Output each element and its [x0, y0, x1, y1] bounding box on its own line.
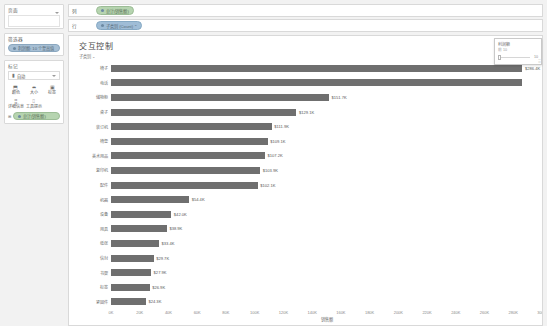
columns-pill-sum-sales[interactable]: 总计(销售额) — [96, 6, 134, 15]
bar-row: $33.4K — [111, 236, 542, 251]
mark-tooltip-button[interactable]: ⌷ 工具提示 — [25, 97, 42, 110]
mark-detail-label: 详细信息 — [8, 104, 24, 109]
category-axis: 椅子电话储物柜桌子装订机椅垫美术用品复印机配件机器设备用具纸张信封书架标签紧固件 — [69, 60, 111, 309]
bar-mark[interactable] — [111, 94, 329, 101]
slider-knob[interactable] — [498, 55, 501, 60]
axis-tick-label: 300K — [537, 310, 543, 315]
slider-track — [498, 57, 530, 58]
category-label: 电话 — [69, 76, 111, 91]
bar-row: $111.9K — [111, 119, 542, 134]
bar-mark[interactable] — [111, 255, 154, 262]
axis-tick-label: 60K — [194, 310, 201, 315]
marks-card: 标记 ▮ 自动 ⬒ 颜色 ⬌ 大小 ▣ 标签 — [4, 60, 64, 124]
bar-row: $38.9K — [111, 222, 542, 237]
rows-pill-subcategory[interactable]: 子类别 (Count) ⌃ — [96, 21, 142, 30]
bar-mark[interactable] — [111, 269, 151, 276]
bar-mark[interactable] — [111, 109, 296, 116]
mark-type-value: 自动 — [17, 73, 25, 79]
category-label: 储物柜 — [69, 90, 111, 105]
bar-mark[interactable] — [111, 79, 522, 86]
bar-mark[interactable] — [111, 167, 260, 174]
rows-shelf[interactable]: 行 子类别 (Count) ⌃ — [68, 19, 543, 32]
bar-row: $54.4K — [111, 192, 542, 207]
bars-container: $286.4K$151.7K$129.1K$111.9K$109.1K$107.… — [111, 60, 542, 309]
mark-type-select[interactable]: ▮ 自动 — [8, 71, 60, 80]
abc-icon: ⊞ — [8, 114, 11, 119]
mark-color-button[interactable]: ⬒ 颜色 — [7, 83, 24, 96]
bar-row: $27.9K — [111, 265, 542, 280]
bar-value-label: $54.4K — [192, 197, 205, 202]
axis-tick-label: 240K — [451, 310, 460, 315]
category-label: 椅子 — [69, 61, 111, 76]
rows-shelf-label: 行 — [72, 23, 94, 29]
axis-tick-label: 280K — [509, 310, 518, 315]
bar-value-label: $103.9K — [263, 168, 278, 173]
bar-value-label: $29.7K — [156, 256, 169, 261]
category-label: 美术用品 — [69, 149, 111, 164]
mark-size-label: 大小 — [30, 90, 38, 95]
left-sidebar: 页面 筛选器 利润额: 10 个至高值 标记 ▮ 自动 ⬒ 颜色 — [0, 0, 68, 326]
value-axis-ticks: 销售额 0K20K40K60K80K100K120K140K160K180K20… — [111, 309, 542, 325]
bar-row: $42.0K — [111, 207, 542, 222]
axis-tick-label: 0K — [109, 310, 114, 315]
bar-mark[interactable] — [111, 152, 265, 159]
mark-label-label: 标签 — [48, 90, 56, 95]
bar-mark[interactable] — [111, 284, 150, 291]
filters-card: 筛选器 利润额: 10 个至高值 — [4, 33, 64, 56]
axis-spacer — [69, 309, 111, 325]
bar-value-label: $24.3K — [148, 299, 161, 304]
mark-detail-button[interactable]: ⣿ 详细信息 — [7, 97, 24, 110]
bar-row: $129.1K — [111, 105, 542, 120]
axis-tick-label: 40K — [165, 310, 172, 315]
bar-value-label: $151.7K — [331, 95, 346, 100]
chevron-down-icon[interactable] — [52, 75, 56, 77]
category-label: 桌子 — [69, 105, 111, 120]
filter-card-slider[interactable]: 10 — [497, 53, 539, 62]
bar-value-label: $33.4K — [161, 241, 174, 246]
bar-row: $107.2K — [111, 149, 542, 164]
value-axis-title: 销售额 — [321, 316, 333, 322]
value-axis: 销售额 0K20K40K60K80K100K120K140K160K180K20… — [69, 309, 542, 325]
category-label: 紧固件 — [69, 295, 111, 310]
resize-grip-icon[interactable]: ⠿ — [538, 59, 541, 64]
category-label: 用具 — [69, 222, 111, 237]
bar-mark[interactable] — [111, 298, 146, 305]
marks-detail-row: ⊞ 总计(销售额) — [5, 112, 63, 123]
bar-value-label: $27.9K — [154, 270, 167, 275]
bar-mark[interactable] — [111, 196, 189, 203]
bar-mark[interactable] — [111, 65, 522, 72]
bar-value-label: $286.4K — [525, 66, 540, 71]
chevron-down-icon[interactable] — [55, 12, 59, 14]
measure-dot-icon — [18, 115, 21, 118]
pages-dropzone[interactable] — [8, 15, 60, 27]
bar-row: $151.7K — [111, 90, 542, 105]
mark-size-button[interactable]: ⬌ 大小 — [25, 83, 42, 96]
category-label: 书架 — [69, 265, 111, 280]
axis-tick-label: 200K — [394, 310, 403, 315]
axis-tick-label: 140K — [307, 310, 316, 315]
bar-mark[interactable] — [111, 123, 272, 130]
bar-row: $109.1K — [111, 134, 542, 149]
bar-mark[interactable] — [111, 182, 258, 189]
filter-pill-profit-top10[interactable]: 利润额: 10 个至高值 — [8, 44, 60, 52]
bar-mark[interactable] — [111, 211, 171, 218]
marks-pill-sum-sales[interactable]: 总计(销售额) — [13, 112, 60, 120]
bar-value-label: $109.1K — [270, 139, 285, 144]
profit-filter-card[interactable]: 利润额 前 10 10 ⠿ — [494, 38, 542, 65]
category-label: 纸张 — [69, 236, 111, 251]
bar-row: $102.1K — [111, 178, 542, 193]
columns-pill-label: 总计(销售额) — [106, 8, 129, 14]
row-axis-header: 子类别 ⌄ — [69, 52, 542, 60]
bar-value-label: $42.0K — [174, 212, 187, 217]
bar-value-label: $38.9K — [169, 226, 182, 231]
bar-mark[interactable] — [111, 138, 268, 145]
bar-row: $24.3K — [111, 295, 542, 310]
mark-property-grid: ⬒ 颜色 ⬌ 大小 ▣ 标签 ⣿ 详细信息 ⌷ 工具提示 — [5, 82, 63, 112]
axis-tick-label: 220K — [422, 310, 431, 315]
bar-row: $26.9K — [111, 280, 542, 295]
bar-mark[interactable] — [111, 240, 159, 247]
bar-mark[interactable] — [111, 225, 167, 232]
mark-label-button[interactable]: ▣ 标签 — [44, 83, 61, 96]
columns-shelf[interactable]: 列 总计(销售额) — [68, 4, 543, 17]
bar-icon: ▮ — [12, 73, 15, 78]
